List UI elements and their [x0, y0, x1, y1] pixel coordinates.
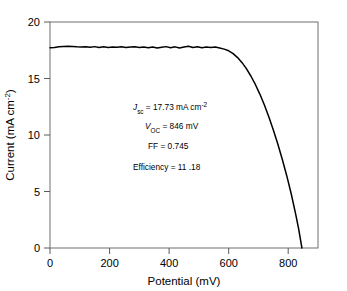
y-tick-label-15: 15	[28, 73, 40, 85]
y-axis-ticks	[44, 22, 50, 248]
annotation-voc-subscript: OC	[151, 127, 161, 134]
annotation-jsc-value: = 17.73 mA cm	[144, 102, 202, 112]
annotation-voc: VOC = 846 mV	[145, 121, 199, 134]
y-tick-label-5: 5	[34, 186, 40, 198]
y-axis-title-main: Current (mA cm	[4, 100, 16, 181]
y-axis-tick-labels: 0 5 10 15 20	[28, 16, 40, 254]
x-tick-label-0: 0	[47, 257, 53, 269]
plot-frame	[50, 22, 318, 248]
x-axis-tick-labels: 0 200 400 600 800	[47, 257, 297, 269]
y-tick-label-20: 20	[28, 16, 40, 28]
y-tick-label-0: 0	[34, 242, 40, 254]
x-axis-title: Potential (mV)	[148, 275, 221, 287]
annotation-jsc: Jsc = 17.73 mA cm-2	[132, 101, 208, 115]
y-axis-title: Current (mA cm-2)	[3, 89, 17, 181]
svg-text:Current (mA cm-2): Current (mA cm-2)	[3, 89, 17, 181]
y-axis-title-tail: )	[4, 89, 16, 93]
annotation-ff: FF = 0.745	[148, 141, 189, 151]
chart-annotations: Jsc = 17.73 mA cm-2 VOC = 846 mV FF = 0.…	[132, 101, 208, 173]
x-tick-label-600: 600	[220, 257, 238, 269]
annotation-efficiency: Efficiency = 11 .18	[133, 162, 201, 172]
annotation-voc-value: = 846 mV	[160, 121, 199, 131]
chart-figure: 0 5 10 15 20 0 200 400 600 800 Potential…	[0, 0, 347, 291]
x-tick-label-800: 800	[279, 257, 297, 269]
x-tick-label-400: 400	[160, 257, 178, 269]
x-tick-label-200: 200	[100, 257, 118, 269]
x-axis-ticks	[50, 248, 288, 254]
y-tick-label-10: 10	[28, 129, 40, 141]
jv-curve-plot: 0 5 10 15 20 0 200 400 600 800 Potential…	[0, 0, 347, 291]
annotation-jsc-superscript: -2	[201, 101, 207, 108]
